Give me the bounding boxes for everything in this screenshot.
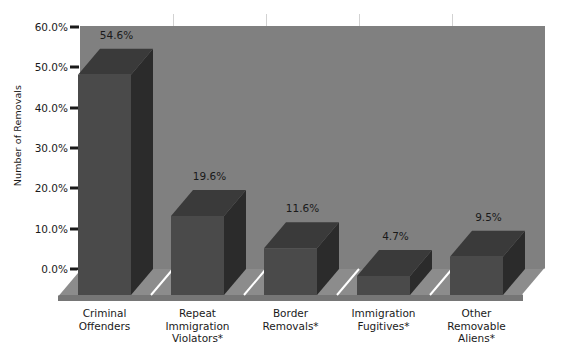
value-label-4: 9.5% — [475, 211, 502, 223]
value-label-0: 54.6% — [100, 29, 133, 41]
bar-front-face-2 — [264, 248, 317, 295]
bar-front-face-0 — [78, 75, 131, 295]
category-label-0: Criminal Offenders — [79, 307, 131, 332]
category-label-3: Immigration Fugitives* — [352, 307, 416, 332]
value-label-3: 4.7% — [382, 230, 409, 242]
value-label-2: 11.6% — [286, 202, 319, 214]
bar-front-face-1 — [171, 216, 224, 295]
category-label-1: Repeat Immigration Violators* — [166, 307, 230, 345]
value-label-1: 19.6% — [193, 170, 226, 182]
category-label-2: Border Removals* — [262, 307, 318, 332]
bar-side-face-0 — [131, 49, 153, 295]
bar-front-face-3 — [357, 276, 410, 295]
bar-front-face-4 — [450, 257, 503, 295]
chart-floor-lip — [58, 295, 523, 301]
category-label-4: Other Removable Aliens* — [447, 307, 506, 345]
